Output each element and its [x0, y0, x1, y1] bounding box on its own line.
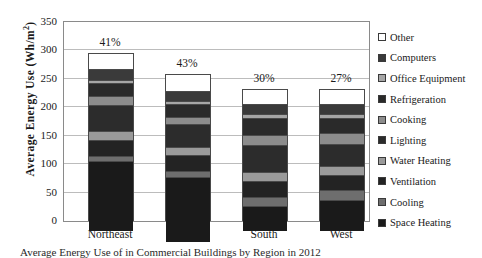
bar-segment — [243, 136, 287, 146]
bar-segment — [320, 119, 364, 135]
bar-segment — [89, 106, 133, 132]
data-label: 41% — [65, 36, 155, 48]
y-axis-tick-label: 150 — [17, 130, 57, 141]
bar-segment — [243, 90, 287, 105]
legend-item-computers[interactable]: Computers — [378, 48, 482, 69]
bar-segment — [89, 162, 133, 231]
bar-segment — [243, 182, 287, 198]
y-axis-tick-label: 250 — [17, 73, 57, 84]
bar-midwest[interactable] — [165, 74, 211, 221]
legend: OtherComputersOffice EquipmentRefrigerat… — [378, 27, 482, 233]
bar-segment — [166, 148, 210, 156]
bar-segment — [320, 167, 364, 176]
bar-segment — [320, 105, 364, 115]
legend-item-other[interactable]: Other — [378, 27, 482, 48]
bar-segment — [320, 145, 364, 166]
legend-item-label: Computers — [390, 52, 436, 63]
bar-segment — [89, 54, 133, 70]
bar-segment — [320, 201, 364, 231]
y-axis-tick-label: 0 — [17, 215, 57, 226]
y-axis-tick-label: 300 — [17, 44, 57, 55]
legend-swatch-icon — [378, 74, 386, 82]
legend-item-lighting[interactable]: Lighting — [378, 130, 482, 151]
legend-item-label: Water Heating — [390, 155, 451, 166]
legend-swatch-icon — [378, 157, 386, 165]
bar-segment — [89, 84, 133, 98]
data-label: 27% — [296, 72, 386, 84]
bar-northeast[interactable] — [88, 53, 134, 221]
y-axis-tick-label: 350 — [17, 16, 57, 27]
bar-segment — [243, 146, 287, 174]
bar-segment — [89, 97, 133, 106]
legend-item-label: Office Equipment — [390, 73, 465, 84]
legend-item-label: Lighting — [390, 135, 426, 146]
legend-item-office-equipment[interactable]: Office Equipment — [378, 68, 482, 89]
legend-swatch-icon — [378, 116, 386, 124]
legend-swatch-icon — [378, 95, 386, 103]
legend-item-label: Cooking — [390, 114, 426, 125]
bar-segment — [89, 70, 133, 81]
bar-segment — [166, 156, 210, 172]
bar-segment — [89, 132, 133, 140]
legend-item-refrigeration[interactable]: Refrigeration — [378, 89, 482, 110]
legend-swatch-icon — [378, 33, 386, 41]
plot-area — [63, 21, 370, 222]
bar-segment — [89, 141, 133, 157]
legend-swatch-icon — [378, 219, 386, 227]
legend-swatch-icon — [378, 198, 386, 206]
legend-item-label: Ventilation — [390, 176, 436, 187]
legend-swatch-icon — [378, 136, 386, 144]
figure-caption: Average Energy Use of in Commercial Buil… — [20, 246, 321, 258]
legend-swatch-icon — [378, 54, 386, 62]
bar-south[interactable] — [242, 89, 288, 221]
x-axis-tick-label: West — [296, 228, 386, 240]
y-axis-tick-label: 50 — [17, 187, 57, 198]
bar-west[interactable] — [319, 89, 365, 221]
y-axis-tick-label: 200 — [17, 101, 57, 112]
bar-segment — [243, 173, 287, 181]
legend-item-ventilation[interactable]: Ventilation — [378, 171, 482, 192]
bar-segment — [320, 176, 364, 192]
bar-segment — [243, 105, 287, 115]
bar-segment — [243, 198, 287, 207]
y-axis-tick-label: 100 — [17, 158, 57, 169]
legend-item-label: Cooling — [390, 197, 424, 208]
bar-segment — [166, 125, 210, 149]
bar-segment — [166, 75, 210, 91]
bar-segment — [243, 119, 287, 136]
legend-item-cooling[interactable]: Cooling — [378, 192, 482, 213]
legend-swatch-icon — [378, 177, 386, 185]
bar-segment — [320, 90, 364, 105]
legend-item-space-heating[interactable]: Space Heating — [378, 212, 482, 233]
bar-segment — [166, 105, 210, 118]
bar-segment — [320, 134, 364, 145]
legend-item-water-heating[interactable]: Water Heating — [378, 151, 482, 172]
bar-segment — [320, 191, 364, 201]
bar-segment — [166, 92, 210, 102]
legend-item-cooking[interactable]: Cooking — [378, 109, 482, 130]
legend-item-label: Space Heating — [390, 217, 451, 228]
data-label: 43% — [142, 57, 232, 69]
legend-item-label: Other — [390, 32, 414, 43]
gridline — [64, 49, 369, 50]
legend-item-label: Refrigeration — [390, 94, 446, 105]
bar-segment — [166, 118, 210, 125]
